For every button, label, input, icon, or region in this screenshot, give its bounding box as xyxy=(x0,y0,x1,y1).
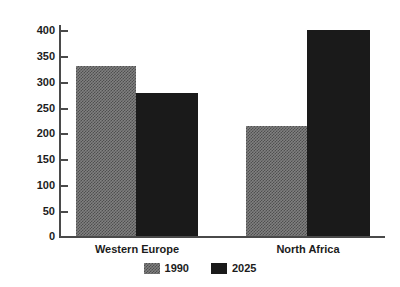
legend-label-1990: 1990 xyxy=(165,263,189,274)
bar-north-africa-1990[interactable] xyxy=(246,126,307,236)
bar-north-africa-2025[interactable] xyxy=(307,30,370,236)
legend-swatch-1990-icon xyxy=(144,263,160,274)
category-label-north-africa: North Africa xyxy=(248,243,368,256)
legend-item-1990[interactable]: 1990 xyxy=(144,263,189,274)
legend-swatch-2025-icon xyxy=(211,263,227,274)
category-label-western-europe: Western Europe xyxy=(77,243,197,256)
legend-item-2025[interactable]: 2025 xyxy=(211,263,256,274)
x-axis-line xyxy=(59,236,385,238)
legend-label-2025: 2025 xyxy=(232,263,256,274)
bar-chart: 400 350 300 250 200 150 100 50 0 Western… xyxy=(0,0,400,287)
bars-layer xyxy=(0,25,400,236)
legend: 1990 2025 xyxy=(0,263,400,274)
bar-western-europe-1990[interactable] xyxy=(76,66,136,236)
bar-western-europe-2025[interactable] xyxy=(136,93,198,236)
